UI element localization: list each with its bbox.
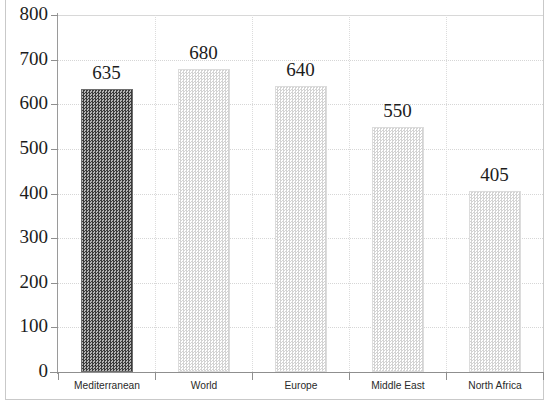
y-axis-tick	[51, 60, 58, 61]
bar-chart: 0100200300400500600700800 63568064055040…	[0, 0, 550, 407]
bar-value-label: 640	[261, 59, 341, 81]
x-axis-line	[50, 372, 544, 373]
category-separator	[446, 15, 448, 372]
category-label: Middle East	[346, 379, 448, 391]
category-label: World	[152, 379, 254, 391]
bar-middle-east[interactable]	[372, 127, 424, 372]
y-axis-tick	[51, 194, 58, 195]
bar-value-label: 635	[67, 62, 147, 84]
category-separator	[252, 15, 254, 372]
y-axis-tick	[51, 15, 58, 16]
y-axis-tick	[51, 372, 58, 373]
y-axis-tick	[51, 149, 58, 150]
y-axis-tick-label: 500	[0, 137, 48, 159]
gridline	[58, 15, 543, 17]
y-axis-tick	[51, 104, 58, 105]
y-axis-tick-label: 100	[0, 315, 48, 337]
bar-world[interactable]	[178, 69, 230, 372]
y-axis-tick-label: 0	[0, 360, 48, 382]
y-axis-tick	[51, 283, 58, 284]
y-axis-tick	[51, 238, 58, 239]
bar-value-label: 680	[164, 42, 244, 64]
y-axis-tick-label: 800	[0, 3, 48, 25]
category-label: Mediterranean	[55, 379, 157, 391]
bar-mediterranean[interactable]	[81, 89, 133, 372]
bar-value-label: 550	[358, 100, 438, 122]
bar-north-africa[interactable]	[469, 191, 521, 372]
y-axis-tick-label: 400	[0, 182, 48, 204]
y-axis-tick-label: 700	[0, 48, 48, 70]
category-separator	[155, 15, 157, 372]
y-axis-tick-label: 600	[0, 92, 48, 114]
y-axis-tick-label: 300	[0, 226, 48, 248]
category-label: Europe	[249, 379, 351, 391]
bar-europe[interactable]	[275, 86, 327, 372]
bar-value-label: 405	[455, 164, 535, 186]
category-label: North Africa	[443, 379, 545, 391]
category-separator	[349, 15, 351, 372]
y-axis-tick-label: 200	[0, 271, 48, 293]
y-axis-tick	[51, 327, 58, 328]
